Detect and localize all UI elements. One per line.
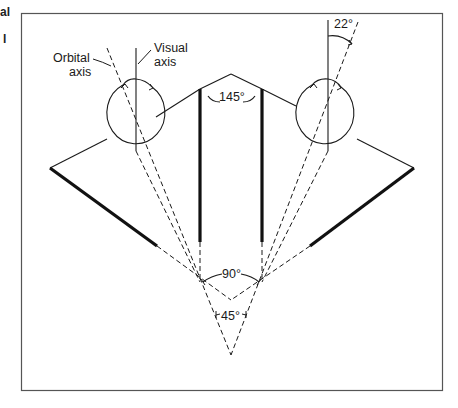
left-lateral-wall [50,168,157,246]
angle-22-label: 22° [334,17,353,31]
left-orbital-axis [107,48,231,355]
clipped-margin-text: l [3,32,6,46]
orbit-axes-diagram: Orbital axis Visual axis 22° 145° 90° 45… [0,0,458,408]
right-eye [296,20,354,151]
right-lateral-wall [310,168,414,246]
angle-145-label: 145° [219,90,245,104]
projection-dashed-lines [107,22,358,355]
angle-45-label: 45° [221,309,240,323]
angle-90-label: 90° [222,267,241,281]
clipped-margin-text: al [0,5,10,19]
orbital-axis-label: axis [69,65,91,79]
visual-axis-label: axis [154,55,176,69]
orbital-axis-label: Orbital [53,51,90,65]
visual-axis-label: Visual [154,41,188,55]
right-orbital-axis [231,22,358,355]
skull-outline [50,74,414,168]
diagram-figure: al l [0,0,458,408]
orbital-walls [50,89,414,246]
label-leaders [93,50,151,66]
